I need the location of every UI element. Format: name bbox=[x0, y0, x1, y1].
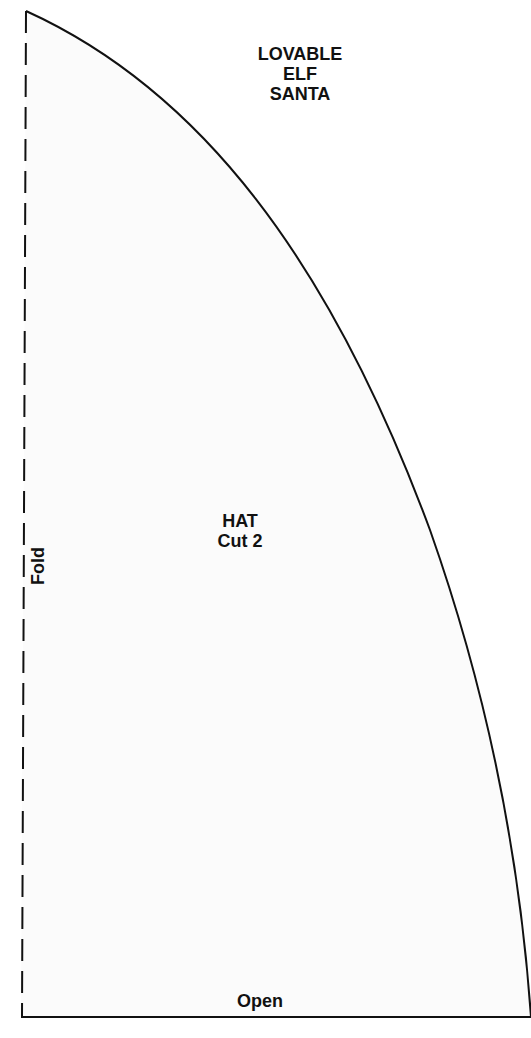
pattern-title: LOVABLE ELF SANTA bbox=[230, 44, 370, 104]
title-line-2: ELF bbox=[230, 64, 370, 84]
fold-label: Fold bbox=[28, 541, 50, 591]
piece-name: HAT bbox=[185, 511, 295, 531]
open-label: Open bbox=[215, 991, 305, 1011]
pattern-sheet: LOVABLE ELF SANTA HAT Cut 2 Fold Open bbox=[0, 0, 531, 1038]
title-line-3: SANTA bbox=[230, 84, 370, 104]
piece-cut-instruction: Cut 2 bbox=[185, 531, 295, 551]
piece-info: HAT Cut 2 bbox=[185, 511, 295, 551]
title-line-1: LOVABLE bbox=[230, 44, 370, 64]
